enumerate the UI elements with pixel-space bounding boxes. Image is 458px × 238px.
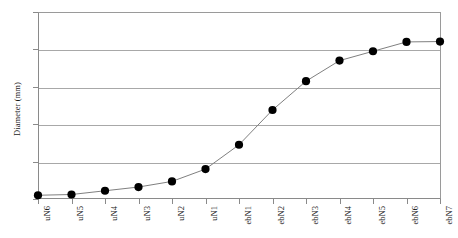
chart-container: Diameter (mm) 01020304050 uN6uN5uN4uN3uN… xyxy=(0,0,458,238)
x-tick-label-ebN3: ebN3 xyxy=(310,206,320,224)
x-tick-mark-uN6 xyxy=(38,199,39,204)
x-tick-mark-uN3 xyxy=(139,199,140,204)
gridline-10 xyxy=(39,163,440,164)
x-tick-mark-ebN7 xyxy=(440,199,441,204)
x-tick-mark-ebN6 xyxy=(407,199,408,204)
x-tick-mark-ebN2 xyxy=(273,199,274,204)
x-tick-label-uN2: uN2 xyxy=(176,206,186,221)
x-tick-mark-uN4 xyxy=(105,199,106,204)
x-tick-mark-uN1 xyxy=(206,199,207,204)
x-tick-label-ebN6: ebN6 xyxy=(410,206,420,224)
x-tick-mark-ebN5 xyxy=(373,199,374,204)
x-tick-label-uN3: uN3 xyxy=(142,206,152,221)
x-tick-label-ebN1: ebN1 xyxy=(243,206,253,224)
x-tick-mark-uN5 xyxy=(72,199,73,204)
x-tick-label-uN4: uN4 xyxy=(109,206,119,221)
x-tick-mark-uN2 xyxy=(172,199,173,204)
gridline-40 xyxy=(39,50,440,51)
x-tick-label-uN6: uN6 xyxy=(42,206,52,221)
x-tick-label-ebN5: ebN5 xyxy=(377,206,387,224)
x-tick-mark-ebN3 xyxy=(306,199,307,204)
x-tick-label-ebN2: ebN2 xyxy=(276,206,286,224)
x-tick-mark-ebN1 xyxy=(239,199,240,204)
x-tick-mark-ebN4 xyxy=(340,199,341,204)
y-axis-title: Diameter (mm) xyxy=(12,54,22,164)
gridline-20 xyxy=(39,125,440,126)
x-tick-label-uN5: uN5 xyxy=(75,206,85,221)
plot-area xyxy=(38,12,441,199)
x-tick-label-ebN7: ebN7 xyxy=(444,206,454,224)
x-tick-label-uN1: uN1 xyxy=(209,206,219,221)
gridline-30 xyxy=(39,88,440,89)
x-tick-label-ebN4: ebN4 xyxy=(343,206,353,224)
